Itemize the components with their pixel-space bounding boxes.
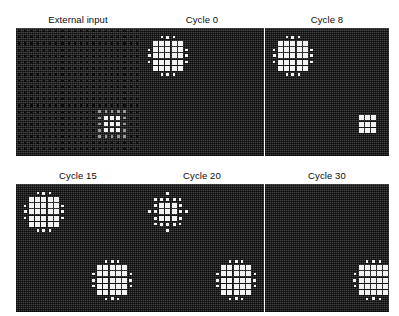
field-unit (74, 104, 76, 106)
field-unit (55, 42, 57, 44)
field-unit (284, 66, 289, 71)
field-unit (310, 49, 312, 51)
field-unit (123, 61, 125, 63)
field-unit (246, 290, 251, 295)
field-unit (54, 203, 59, 208)
field-unit (166, 192, 169, 195)
field-unit (92, 111, 94, 113)
field-unit (372, 260, 375, 263)
field-unit (278, 60, 283, 65)
field-unit (130, 104, 132, 106)
field-unit (130, 92, 132, 94)
field-unit (130, 129, 132, 131)
field-unit (383, 271, 388, 276)
field-unit (86, 42, 88, 44)
field-map-cycle-8 (265, 28, 389, 156)
field-unit (99, 104, 101, 106)
panel-title-cycle-30: Cycle 30 (265, 170, 389, 182)
field-unit (359, 271, 364, 276)
field-unit (240, 290, 245, 295)
field-unit (111, 55, 113, 57)
field-unit (365, 128, 370, 133)
field-unit (165, 209, 170, 214)
field-unit (383, 278, 388, 283)
field-unit (43, 129, 45, 131)
field-unit (49, 73, 51, 75)
field-unit (92, 273, 94, 275)
field-unit (284, 47, 289, 52)
field-unit (61, 117, 63, 119)
field-unit (116, 122, 120, 126)
field-unit (43, 98, 45, 100)
field-unit (68, 67, 70, 69)
field-unit (68, 92, 70, 94)
field-unit (80, 111, 82, 113)
field-unit (30, 129, 32, 131)
field-unit (24, 135, 26, 137)
field-unit (61, 98, 63, 100)
field-unit (35, 197, 40, 202)
field-unit (117, 67, 119, 69)
field-unit (55, 148, 57, 150)
field-unit (371, 284, 376, 289)
unit-layer (265, 184, 389, 312)
field-unit (159, 53, 164, 58)
field-unit (49, 135, 51, 137)
field-unit (116, 116, 120, 120)
field-unit (123, 98, 125, 100)
field-unit (68, 117, 70, 119)
field-unit (110, 271, 115, 276)
field-unit (68, 86, 70, 88)
field-unit (80, 80, 82, 82)
field-unit (103, 290, 108, 295)
field-unit (130, 123, 132, 125)
field-unit (105, 49, 107, 51)
field-unit (371, 115, 376, 120)
field-unit (97, 284, 102, 289)
field-unit (310, 61, 312, 63)
field-unit (303, 60, 308, 65)
field-unit (49, 80, 51, 82)
field-unit (359, 128, 364, 133)
field-unit (37, 117, 39, 119)
field-unit (24, 61, 26, 63)
panel-cycle-30: Cycle 30 (265, 170, 389, 312)
field-unit (136, 36, 138, 38)
panel-title-cycle-0: Cycle 0 (140, 14, 264, 26)
field-unit (241, 298, 243, 300)
field-unit (37, 61, 39, 63)
field-unit (18, 55, 20, 57)
field-unit (179, 198, 181, 200)
panel-external-input: External input (16, 14, 140, 156)
field-unit (61, 205, 63, 207)
field-unit (61, 217, 63, 219)
field-map-cycle-15 (16, 184, 140, 312)
field-unit (286, 36, 288, 38)
field-unit (43, 92, 45, 94)
panel-title-external-input: External input (16, 14, 140, 26)
field-unit (111, 42, 113, 44)
field-unit (86, 111, 88, 113)
panel-cycle-20: Cycle 20 (140, 170, 264, 312)
field-unit (30, 98, 32, 100)
field-unit (154, 223, 156, 225)
field-unit (54, 216, 59, 221)
field-unit (24, 129, 26, 131)
field-unit (234, 278, 239, 283)
field-unit (111, 92, 113, 94)
field-unit (61, 135, 63, 137)
field-unit (37, 104, 39, 106)
field-unit (123, 55, 125, 57)
field-unit (246, 271, 251, 276)
field-unit (55, 98, 57, 100)
field-unit (136, 148, 138, 150)
field-unit (229, 298, 231, 300)
field-unit (110, 284, 115, 289)
field-unit (92, 92, 94, 94)
field-unit (43, 49, 45, 51)
field-unit (105, 148, 107, 150)
field-unit (43, 148, 45, 150)
field-unit (99, 142, 101, 144)
field-unit (24, 73, 26, 75)
field-unit (37, 55, 39, 57)
